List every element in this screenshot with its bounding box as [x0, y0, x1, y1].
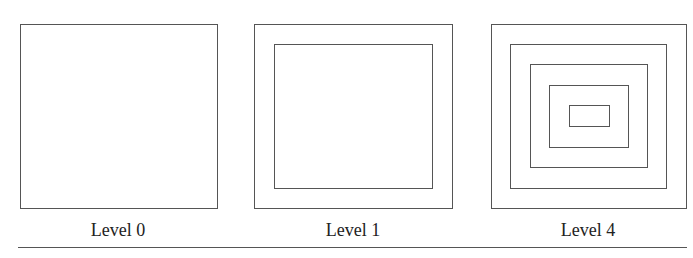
level-1-label: Level 1: [253, 220, 453, 241]
level-0-outer-square: [20, 24, 218, 209]
level-4-label: Level 4: [488, 220, 688, 241]
level-1-ring-2: [274, 44, 433, 189]
level-0-label: Level 0: [18, 220, 218, 241]
bottom-divider: [18, 247, 687, 248]
level-4-ring-5: [569, 105, 610, 127]
